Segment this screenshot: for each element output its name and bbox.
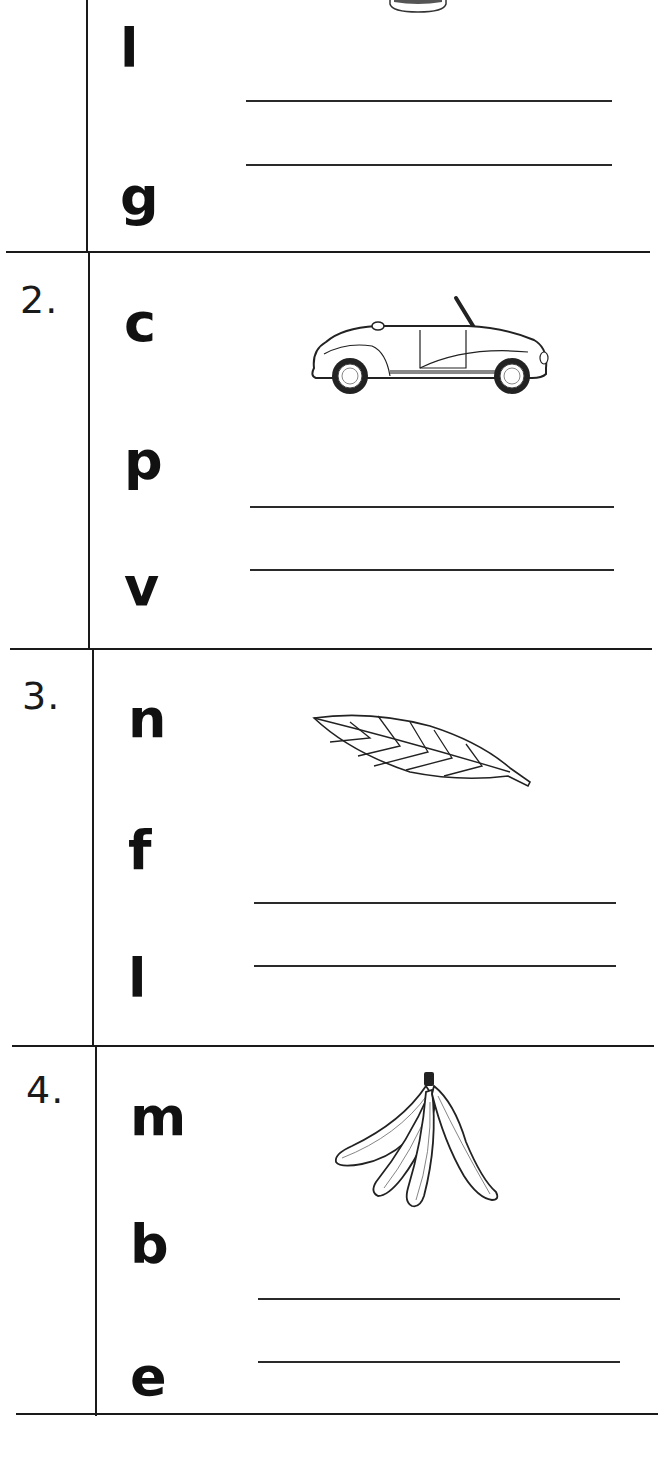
letter-option: l (120, 22, 139, 76)
answer-line[interactable] (250, 569, 614, 571)
column-divider (95, 1046, 97, 1416)
letter-option: c (124, 296, 156, 350)
letter-option: p (124, 434, 163, 488)
row-divider (6, 251, 650, 253)
row-divider (16, 1413, 658, 1415)
exercise-number: 3. (22, 674, 60, 718)
row-divider (10, 648, 652, 650)
letter-option: l (128, 952, 147, 1006)
row-divider (12, 1045, 654, 1047)
letter-option: g (120, 170, 159, 224)
column-divider (86, 0, 88, 252)
answer-line[interactable] (246, 100, 612, 102)
car-icon (306, 294, 554, 398)
partial-image-top (386, 0, 450, 16)
answer-line[interactable] (250, 506, 614, 508)
answer-line[interactable] (246, 164, 612, 166)
column-divider (92, 650, 94, 1046)
banana-bunch-icon (332, 1072, 504, 1212)
answer-line[interactable] (254, 902, 616, 904)
answer-line[interactable] (258, 1361, 620, 1363)
column-divider (88, 252, 90, 650)
exercise-number: 4. (26, 1068, 64, 1112)
letter-option: e (130, 1350, 167, 1404)
leaf-icon (310, 712, 536, 790)
letter-option: f (128, 824, 152, 878)
answer-line[interactable] (258, 1298, 620, 1300)
answer-line[interactable] (254, 965, 616, 967)
letter-option: m (130, 1090, 186, 1144)
exercise-number: 2. (20, 278, 58, 322)
letter-option: n (128, 692, 166, 746)
letter-option: b (130, 1218, 169, 1272)
letter-option: v (124, 560, 159, 614)
